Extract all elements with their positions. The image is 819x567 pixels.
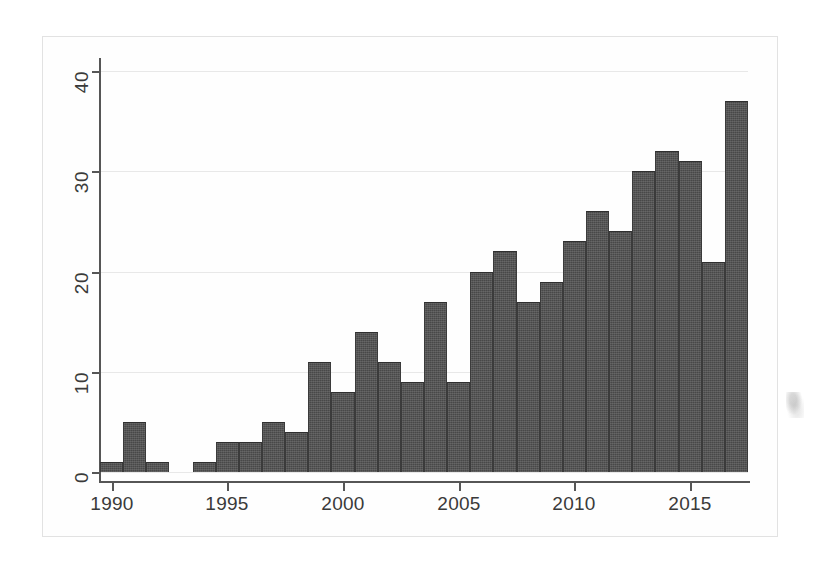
y-tick-label-30: 30: [71, 171, 93, 193]
bar-1990: [100, 462, 123, 472]
bar-1992: [146, 462, 169, 472]
bar-2010: [563, 241, 586, 472]
x-tick-label-2000: 2000: [321, 493, 364, 515]
x-tick-mark-2010: [574, 482, 576, 491]
bar-1991: [123, 422, 146, 472]
bar-1996: [239, 442, 262, 472]
y-tick-mark-0: [92, 472, 101, 474]
bar-1998: [285, 432, 308, 472]
bar-2012: [609, 231, 632, 472]
bar-2003: [401, 382, 424, 472]
bar-2004: [424, 302, 447, 472]
x-tick-mark-2015: [690, 482, 692, 491]
bar-2008: [517, 302, 540, 472]
x-tick-label-1990: 1990: [90, 493, 133, 515]
plot-area: [100, 55, 748, 472]
bar-2015: [679, 161, 702, 472]
bar-2001: [355, 332, 378, 472]
bar-2013: [632, 171, 655, 472]
bar-2005: [447, 382, 470, 472]
x-tick-label-2015: 2015: [668, 493, 711, 515]
bar-1994: [193, 462, 216, 472]
bar-2009: [540, 282, 563, 472]
bar-2011: [586, 211, 609, 472]
x-tick-mark-1990: [112, 482, 114, 491]
y-tick-label-40: 40: [71, 71, 93, 93]
x-tick-label-2010: 2010: [552, 493, 595, 515]
x-tick-mark-2005: [459, 482, 461, 491]
bar-2006: [470, 272, 493, 472]
y-tick-label-10: 10: [71, 372, 93, 394]
x-axis-line: [99, 481, 750, 483]
bar-2014: [655, 151, 678, 472]
bar-2007: [493, 251, 516, 472]
bar-2000: [331, 392, 354, 472]
x-tick-label-2005: 2005: [437, 493, 480, 515]
x-tick-mark-2000: [343, 482, 345, 491]
bar-1995: [216, 442, 239, 472]
bar-2002: [378, 362, 401, 472]
y-tick-label-20: 20: [71, 272, 93, 294]
bar-2017: [725, 101, 748, 472]
bar-1997: [262, 422, 285, 472]
bar-2016: [702, 262, 725, 473]
x-tick-label-1995: 1995: [205, 493, 248, 515]
y-tick-label-0: 0: [71, 472, 93, 483]
x-tick-mark-1995: [227, 482, 229, 491]
bar-chart: 010203040 199019952000200520102015: [0, 0, 819, 567]
bar-1999: [308, 362, 331, 472]
gridline-y-0: [100, 472, 748, 473]
